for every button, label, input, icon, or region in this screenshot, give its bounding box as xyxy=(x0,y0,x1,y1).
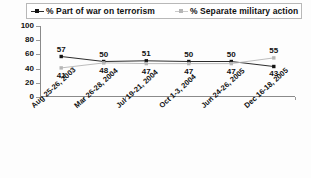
data-point-marker[interactable] xyxy=(230,62,233,65)
data-point-marker[interactable] xyxy=(60,66,63,69)
line-chart: % Part of war on terrorism % Separate mi… xyxy=(0,0,311,178)
point-label-upper-3: 51 xyxy=(135,50,157,58)
point-label-upper-4: 50 xyxy=(178,51,200,59)
point-label-upper-2: 50 xyxy=(93,51,115,59)
point-label-upper-6: 55 xyxy=(263,47,285,55)
data-point-marker[interactable] xyxy=(102,61,105,64)
data-point-marker[interactable] xyxy=(187,62,190,65)
point-label-upper-1: 57 xyxy=(50,46,72,54)
data-point-marker[interactable] xyxy=(60,55,63,58)
data-point-marker[interactable] xyxy=(272,65,275,68)
data-point-marker[interactable] xyxy=(272,56,275,59)
data-point-marker[interactable] xyxy=(145,62,148,65)
point-label-upper-5: 50 xyxy=(220,51,242,59)
